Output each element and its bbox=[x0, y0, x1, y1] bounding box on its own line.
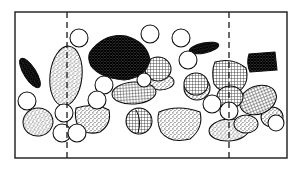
figure-root bbox=[0, 0, 300, 176]
void-circle bbox=[179, 51, 197, 69]
clast-grid-small-left bbox=[184, 73, 208, 95]
clast-stipple-basket bbox=[158, 108, 201, 140]
void-circle bbox=[68, 124, 86, 142]
void-circle bbox=[70, 29, 88, 47]
clast-stipple-upper-right bbox=[234, 115, 258, 133]
void-circle bbox=[268, 115, 284, 131]
void-circle bbox=[203, 95, 221, 113]
void-circle bbox=[55, 104, 73, 122]
section-diagram bbox=[0, 0, 300, 176]
void-circle bbox=[18, 92, 36, 110]
void-circle bbox=[137, 73, 151, 87]
clast-dark-block-right bbox=[248, 52, 277, 72]
void-circle bbox=[141, 25, 159, 43]
void-circle bbox=[88, 91, 106, 109]
void-circle bbox=[172, 29, 190, 47]
